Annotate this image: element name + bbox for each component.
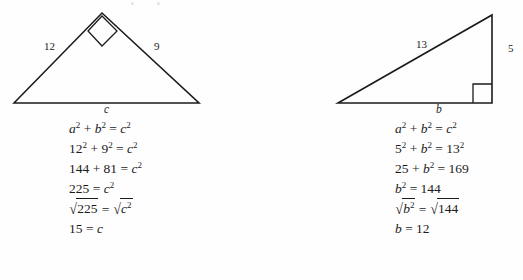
left-example: 12 9 c a2 + b2 = c2 122 + 92 = c2 144 + … — [0, 0, 262, 280]
radical-left: √b2 — [395, 199, 415, 220]
left-equation-list: a2 + b2 = c2 122 + 92 = c2 144 + 81 = c2… — [69, 119, 142, 239]
equation-line: a2 + b2 = c2 — [395, 119, 469, 139]
equation-line: 15 = c — [69, 219, 142, 239]
radical-right: √c2 — [113, 199, 133, 220]
equation-line: 225 = c2 — [69, 179, 142, 199]
page-canvas: 12 9 c a2 + b2 = c2 122 + 92 = c2 144 + … — [0, 0, 523, 280]
equation-line: 144 + 81 = c2 — [69, 159, 142, 179]
triangle-left-svg — [0, 0, 262, 120]
radical-right: √144 — [430, 199, 459, 220]
equation-line: 25 + b2 = 169 — [395, 159, 469, 179]
hypotenuse-label-13: 13 — [416, 39, 427, 50]
triangle-right-svg — [262, 0, 523, 120]
leg-label-9: 9 — [154, 41, 160, 52]
triangle-left-outline — [14, 13, 199, 103]
equation-line: b = 12 — [395, 219, 469, 239]
radical-left: √225 — [69, 199, 98, 220]
right-angle-marker-left — [88, 16, 117, 46]
equation-line-radical: √225 = √c2 — [69, 199, 142, 219]
right-example: 13 5 b a2 + b2 = c2 52 + b2 = 132 25 + b… — [262, 0, 523, 280]
right-angle-marker-right — [473, 84, 492, 103]
triangle-left-figure: 12 9 c — [0, 0, 262, 120]
base-label-b: b — [436, 104, 442, 116]
base-label-c: c — [104, 104, 109, 116]
leg-label-12: 12 — [44, 41, 55, 52]
triangle-right-figure: 13 5 b — [262, 0, 523, 120]
equation-line: a2 + b2 = c2 — [69, 119, 142, 139]
equation-line: 52 + b2 = 132 — [395, 139, 469, 159]
right-equation-list: a2 + b2 = c2 52 + b2 = 132 25 + b2 = 169… — [395, 119, 469, 239]
triangle-right-outline — [338, 15, 492, 103]
equation-line-radical: √b2 = √144 — [395, 199, 469, 219]
leg-label-5: 5 — [508, 43, 514, 54]
equation-line: b2 = 144 — [395, 179, 469, 199]
equation-line: 122 + 92 = c2 — [69, 139, 142, 159]
